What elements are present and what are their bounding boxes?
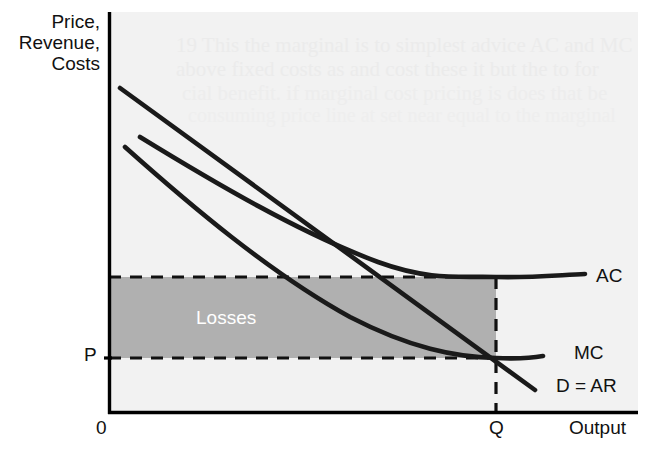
bleed-through-text: 19 This the marginal is to simplest advi… xyxy=(176,33,633,127)
marginal-cost-curve-label: MC xyxy=(574,342,604,364)
economics-diagram: 19 This the marginal is to simplest advi… xyxy=(0,0,646,461)
origin-label: 0 xyxy=(96,417,107,438)
quantity-axis-label: Q xyxy=(489,417,504,438)
y-axis-title-line-1: Price, xyxy=(51,11,100,32)
average-cost-curve-label: AC xyxy=(596,265,622,287)
losses-region-label: Losses xyxy=(196,307,256,329)
price-axis-label: P xyxy=(84,344,97,365)
svg-text:19 This the marginal is to sim: 19 This the marginal is to simplest advi… xyxy=(176,33,633,57)
svg-text:above fixed costs as and cost: above fixed costs as and cost these it b… xyxy=(176,57,599,81)
demand-average-revenue-curve-label: D = AR xyxy=(556,375,617,397)
svg-text:cial benefit. if marginal cost: cial benefit. if marginal cost pricing i… xyxy=(182,81,607,105)
y-axis-title-line-3: Costs xyxy=(51,53,100,74)
svg-text:consuming price line at set ne: consuming price line at set near equal t… xyxy=(188,104,616,127)
x-axis-title: Output xyxy=(569,417,626,438)
y-axis-title-line-2: Revenue, xyxy=(19,32,100,53)
y-axis-title: Price,Revenue,Costs xyxy=(0,11,100,74)
